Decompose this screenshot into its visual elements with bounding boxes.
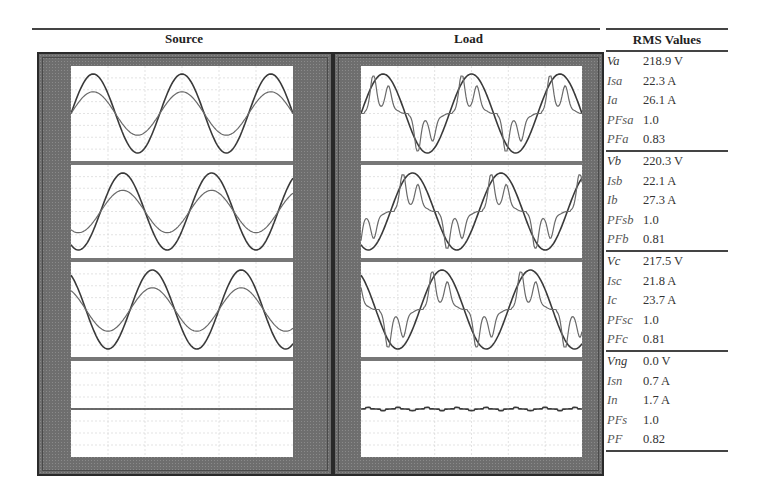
- rms-label: In: [606, 391, 643, 411]
- row-separator: [361, 161, 582, 165]
- rms-row: Isb22.1 A: [606, 172, 728, 192]
- rms-row: In1.7 A: [606, 391, 728, 411]
- rms-row: PFs1.0: [606, 411, 728, 431]
- rms-label: Ia: [606, 91, 643, 111]
- rms-group-a: Va218.9 VIsa22.3 AIa26.1 APFsa1.0PFa0.83: [606, 52, 728, 152]
- load-waveform-plot: [361, 66, 582, 457]
- rms-label: Vb: [606, 152, 643, 172]
- row-separator: [361, 357, 582, 361]
- rms-row: PFsc1.0: [606, 311, 728, 331]
- rms-row: PFb0.81: [606, 230, 728, 250]
- rms-value: 23.7 A: [643, 291, 676, 311]
- rms-value: 218.9 V: [643, 52, 683, 72]
- rms-row: PFsa1.0: [606, 111, 728, 131]
- rms-group-b: Vb220.3 VIsb22.1 AIb27.3 APFsb1.0PFb0.81: [606, 152, 728, 252]
- rms-value: 217.5 V: [643, 252, 683, 272]
- rms-row: Vng0.0 V: [606, 352, 728, 372]
- rms-label: Va: [606, 52, 643, 72]
- rms-row: PFsb1.0: [606, 211, 728, 231]
- row-separator: [71, 161, 293, 165]
- source-title: Source: [37, 31, 331, 47]
- rms-label: Ic: [606, 291, 643, 311]
- rms-value: 1.0: [643, 311, 659, 331]
- rms-label: Ib: [606, 191, 643, 211]
- rms-row: Ib27.3 A: [606, 191, 728, 211]
- top-rule: [32, 28, 600, 30]
- rms-label: PF: [606, 430, 643, 450]
- rms-label: Isb: [606, 172, 643, 192]
- rms-value: 26.1 A: [643, 91, 676, 111]
- rms-value: 0.81: [643, 230, 665, 250]
- row-separator: [71, 357, 293, 361]
- rms-row: PFa0.83: [606, 130, 728, 150]
- rms-row: PF0.82: [606, 430, 728, 450]
- rms-label: PFsa: [606, 111, 643, 131]
- rms-label: PFc: [606, 330, 643, 350]
- rms-group-c: Vc217.5 VIsc21.8 AIc23.7 APFsc1.0PFc0.81: [606, 252, 728, 352]
- rms-value: 1.0: [643, 211, 659, 231]
- rms-header: RMS Values: [606, 30, 728, 52]
- rms-label: Vc: [606, 252, 643, 272]
- rms-row: Isa22.3 A: [606, 72, 728, 92]
- rms-label: Isa: [606, 72, 643, 92]
- rms-value: 21.8 A: [643, 272, 676, 292]
- rms-label: Isc: [606, 272, 643, 292]
- row-separator: [361, 258, 582, 262]
- rms-label: Isn: [606, 372, 643, 392]
- rms-value: 1.0: [643, 111, 659, 131]
- rms-row: Isn0.7 A: [606, 372, 728, 392]
- rms-value: 0.82: [643, 430, 665, 450]
- rms-value: 1.7 A: [643, 391, 670, 411]
- load-title: Load: [334, 31, 603, 47]
- rms-row: Vc217.5 V: [606, 252, 728, 272]
- rms-value: 0.0 V: [643, 352, 671, 372]
- rms-value: 220.3 V: [643, 152, 683, 172]
- rms-label: PFs: [606, 411, 643, 431]
- rms-row: Vb220.3 V: [606, 152, 728, 172]
- rms-value: 22.1 A: [643, 172, 676, 192]
- rms-row: Ic23.7 A: [606, 291, 728, 311]
- source-waveform-plot: [71, 66, 293, 457]
- rms-values-table: RMS Values Va218.9 VIsa22.3 AIa26.1 APFs…: [606, 30, 728, 452]
- rms-row: Va218.9 V: [606, 52, 728, 72]
- rms-label: PFa: [606, 130, 643, 150]
- rms-row: Isc21.8 A: [606, 272, 728, 292]
- rms-label: Vng: [606, 352, 643, 372]
- rms-label: PFsc: [606, 311, 643, 331]
- rms-value: 0.81: [643, 330, 665, 350]
- rms-group-n: Vng0.0 VIsn0.7 AIn1.7 APFs1.0PF0.82: [606, 352, 728, 452]
- rms-value: 1.0: [643, 411, 659, 431]
- rms-label: PFb: [606, 230, 643, 250]
- rms-value: 22.3 A: [643, 72, 676, 92]
- rms-value: 0.83: [643, 130, 665, 150]
- rms-row: Ia26.1 A: [606, 91, 728, 111]
- row-separator: [71, 258, 293, 262]
- rms-value: 27.3 A: [643, 191, 676, 211]
- rms-label: PFsb: [606, 211, 643, 231]
- rms-row: PFc0.81: [606, 330, 728, 350]
- rms-value: 0.7 A: [643, 372, 670, 392]
